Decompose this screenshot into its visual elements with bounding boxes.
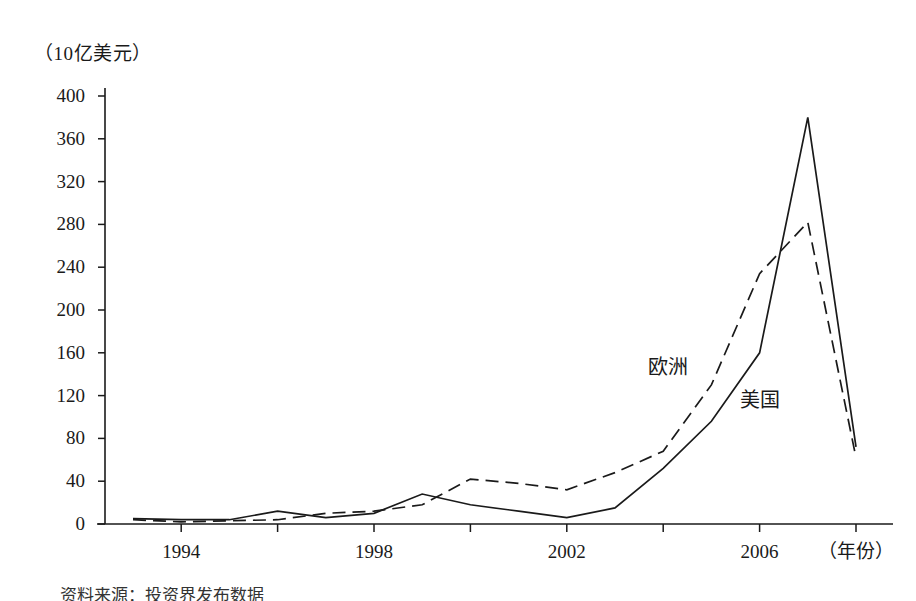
- series-line-europe: [133, 222, 856, 522]
- y-tick-label: 80: [31, 428, 85, 447]
- y-tick-label: 280: [31, 214, 85, 233]
- y-tick-label: 320: [31, 172, 85, 191]
- series-label-europe: 欧洲: [648, 357, 688, 377]
- y-axis-unit-label: （10亿美元）: [34, 38, 152, 65]
- y-tick-label: 400: [31, 86, 85, 105]
- plot-area: [0, 0, 916, 601]
- x-tick-label: 1998: [334, 542, 414, 561]
- figure-caption: 资料来源：投资界发布数据: [60, 587, 264, 601]
- y-tick-label: 160: [31, 343, 85, 362]
- y-tick-label: 120: [31, 386, 85, 405]
- y-tick-label: 40: [31, 471, 85, 490]
- y-tick-label: 0: [31, 514, 85, 533]
- x-axis-title: （年份）: [818, 542, 894, 561]
- x-tick-label: 2006: [720, 542, 800, 561]
- y-tick-label: 240: [31, 257, 85, 276]
- y-tick-label: 200: [31, 300, 85, 319]
- axes-layer: [97, 88, 893, 532]
- line-chart: （10亿美元） 04080120160200240280320360400 19…: [0, 0, 916, 601]
- series-layer: [133, 117, 856, 521]
- series-line-us: [133, 117, 856, 519]
- series-label-us: 美国: [740, 390, 780, 410]
- y-tick-label: 360: [31, 129, 85, 148]
- x-tick-label: 1994: [141, 542, 221, 561]
- x-tick-label: 2002: [527, 542, 607, 561]
